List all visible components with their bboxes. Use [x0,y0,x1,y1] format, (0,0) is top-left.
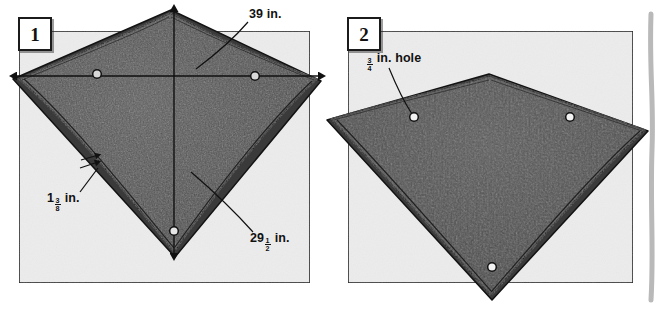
panel-2-hole-right [566,113,575,122]
step-badge-2-label: 2 [359,25,369,44]
hole-dimension-unit: in. hole [377,51,422,65]
kite-panel-figure: 1 2 39 in. 2912 in. 138 in. 34 in. hole [0,0,660,310]
height-dimension-whole: 29 [250,231,264,245]
height-dimension-label: 2912 in. [250,232,290,252]
hole-dimension-denominator: 4 [367,64,373,72]
edge-dimension-unit: in. [65,191,80,205]
panel-1-hole-right [251,72,260,81]
step-badge-1-label: 1 [30,25,40,44]
edge-dimension-fraction: 38 [55,197,61,212]
height-dimension-denominator: 2 [265,244,271,252]
edge-dimension-numerator: 3 [55,197,61,204]
width-dimension-value: 39 in. [249,7,282,21]
height-dimension-fraction: 12 [265,237,271,252]
panel-2-hole-left [410,113,419,122]
step-badge-2: 2 [347,17,381,51]
panel-1-hole-left [93,70,102,79]
scan-edge-stripe [651,14,653,300]
hole-dimension-label: 34 in. hole [366,52,421,72]
height-dimension-numerator: 1 [265,237,271,244]
edge-dimension-denominator: 8 [55,204,61,212]
hole-dimension-numerator: 3 [367,57,373,64]
panel-2-hole-bottom [488,263,497,272]
panel-1-hole-bottom [170,227,179,236]
edge-dimension-whole: 1 [47,191,54,205]
hole-dimension-fraction: 34 [367,57,373,72]
width-dimension-label: 39 in. [249,8,282,21]
height-dimension-unit: in. [275,231,290,245]
edge-dimension-label: 138 in. [47,192,80,212]
step-badge-1: 1 [18,17,52,51]
figure-canvas [0,0,660,310]
